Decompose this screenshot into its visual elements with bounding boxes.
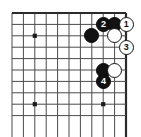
star-point-lower-right: [101, 102, 105, 106]
stone-white-move-3: 3: [119, 40, 134, 55]
stone-move-number: 2: [101, 20, 106, 29]
stone-black-move-4: 4: [96, 74, 111, 89]
stone-white-stone-e: [107, 63, 122, 78]
star-point-upper-left: [33, 34, 37, 38]
stone-move-number: 4: [101, 77, 106, 86]
star-point-lower-left: [33, 102, 37, 106]
stone-move-number: 3: [124, 42, 129, 51]
stone-move-number: 1: [124, 20, 129, 29]
stone-white-move-1: 1: [119, 17, 134, 32]
go-board-diagram: 2134: [0, 0, 141, 137]
